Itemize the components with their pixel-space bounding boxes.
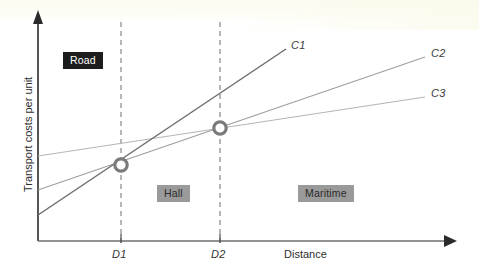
zone-label-maritime: Maritime xyxy=(298,185,354,202)
x-axis-arrowhead xyxy=(444,235,457,247)
y-axis-label: Transport costs per unit xyxy=(22,77,34,192)
curve-label-c3: C3 xyxy=(431,87,445,99)
x-tick-label-d1: D1 xyxy=(112,248,126,260)
marker-intersection-d1 xyxy=(115,159,127,171)
x-tick-label-d2: D2 xyxy=(211,248,225,260)
x-axis-label: Distance xyxy=(284,248,327,260)
curve-c3-line xyxy=(38,97,425,156)
curve-c2-line xyxy=(38,57,425,190)
figure-canvas: Transport costs per unit Distance D1 D2 … xyxy=(0,0,479,275)
curve-label-c1: C1 xyxy=(291,39,305,51)
chart-plot-area xyxy=(0,0,479,275)
zone-label-hall: Hall xyxy=(157,185,190,202)
marker-intersection-d2 xyxy=(214,122,226,134)
curve-label-c2: C2 xyxy=(431,47,445,59)
zone-label-road: Road xyxy=(63,52,103,69)
y-axis-arrowhead xyxy=(33,10,43,24)
